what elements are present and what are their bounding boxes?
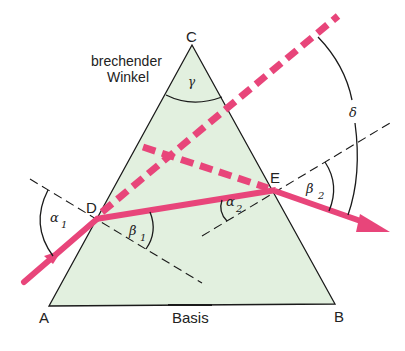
base-label: Basis <box>172 309 209 326</box>
beta2-subscript: 2 <box>317 190 324 201</box>
alpha1-label: α <box>50 210 59 225</box>
vertex-label-a: A <box>39 309 49 326</box>
alpha1-subscript: 1 <box>61 219 67 230</box>
delta-arc-lower <box>348 123 357 215</box>
refracting-angle-label-line2: Winkel <box>107 69 149 85</box>
vertex-label-c: C <box>186 28 197 45</box>
beta2-label: β <box>305 181 314 196</box>
point-label-d: D <box>86 199 97 216</box>
alpha2-label: α <box>226 194 235 209</box>
beta2-arc <box>325 162 334 211</box>
emergent-ray-arrowhead <box>356 214 390 232</box>
delta-arc-upper <box>318 37 352 100</box>
delta-label: δ <box>349 105 357 120</box>
refracting-angle-label-line1: brechender <box>91 53 162 69</box>
prism-refraction-diagram: C A B D E brechender Winkel Basis γ δ α … <box>0 0 405 351</box>
beta1-label: β <box>128 223 137 238</box>
vertex-label-b: B <box>334 308 344 325</box>
beta1-subscript: 1 <box>140 232 146 243</box>
point-label-e: E <box>270 169 280 186</box>
alpha2-subscript: 2 <box>235 203 242 214</box>
gamma-label: γ <box>188 75 196 89</box>
